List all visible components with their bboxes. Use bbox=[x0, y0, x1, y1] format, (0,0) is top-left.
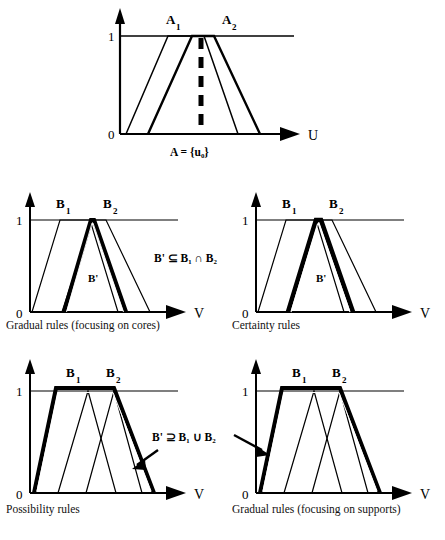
relation-annotation: B' ⊇ B₁ ∪ B₂ bbox=[152, 431, 216, 443]
relation-annotation: B' ⊆ B₁ ∩ B₂ bbox=[154, 252, 217, 264]
certainty-rules-panel: 1 0 B 1 B 2 B' V Certainty rules bbox=[232, 182, 445, 332]
result-curve-b-prime bbox=[64, 220, 126, 312]
curve-label-b1-subscript: 1 bbox=[302, 375, 307, 385]
tick-zero-label: 0 bbox=[242, 487, 249, 502]
y-axis-arrowhead bbox=[251, 192, 261, 207]
tick-one-label: 1 bbox=[108, 29, 115, 44]
tick-one-label: 1 bbox=[242, 213, 249, 228]
x-axis-label-v: V bbox=[420, 306, 430, 321]
x-axis-label-u: U bbox=[308, 128, 318, 143]
tick-one-label: 1 bbox=[16, 384, 23, 399]
tick-zero-label: 0 bbox=[108, 127, 115, 142]
panel-caption-certainty: Certainty rules bbox=[232, 319, 300, 331]
x-axis-arrowhead bbox=[392, 305, 412, 319]
curve-label-b2-subscript: 2 bbox=[342, 375, 347, 385]
possibility-rules-panel: 1 0 B 1 B 2 B' ⊇ B₁ ∪ B₂ V Possibility r… bbox=[6, 353, 221, 513]
curve-label-b2-subscript: 2 bbox=[339, 206, 344, 216]
x-axis-arrowhead bbox=[166, 305, 186, 319]
panel-caption-possibility: Possibility rules bbox=[6, 503, 80, 515]
x-axis-label-v: V bbox=[194, 487, 204, 502]
y-axis-arrowhead bbox=[115, 8, 125, 24]
panel-caption-gradual-supports: Gradual rules (focusing on supports) bbox=[232, 503, 401, 515]
curve-label-b2: B bbox=[332, 365, 341, 380]
curve-label-b1: B bbox=[292, 365, 301, 380]
curve-b1 bbox=[284, 391, 342, 493]
curve-label-b2-subscript: 2 bbox=[113, 206, 118, 216]
y-axis-arrowhead bbox=[25, 192, 35, 207]
curve-label-b2: B bbox=[106, 365, 115, 380]
curve-label-b1-subscript: 1 bbox=[292, 206, 297, 216]
x-axis-arrowhead bbox=[166, 486, 186, 500]
input-set-caption: A = {u₀} bbox=[170, 146, 209, 158]
gradual-rules-supports-panel: 1 0 B 1 B 2 V Gradual rules (focusing on… bbox=[232, 353, 445, 513]
result-curve-b-prime bbox=[260, 388, 380, 493]
input-antecedent-panel: 1 0 A 1 A 2 U A = {u₀} bbox=[108, 2, 338, 160]
curve-label-a2: A bbox=[222, 12, 232, 27]
curve-label-a1: A bbox=[166, 12, 176, 27]
curve-label-a2-subscript: 2 bbox=[232, 22, 237, 32]
curve-a2 bbox=[148, 36, 260, 134]
panel-caption-gradual-cores: Gradual rules (focusing on cores) bbox=[6, 319, 160, 331]
x-axis-arrowhead bbox=[280, 127, 300, 141]
result-label-b-prime: B' bbox=[88, 272, 98, 284]
y-axis-arrowhead bbox=[25, 359, 35, 374]
x-axis-arrowhead bbox=[392, 486, 412, 500]
curve-label-a1-subscript: 1 bbox=[176, 22, 181, 32]
curve-b2 bbox=[62, 220, 150, 312]
x-axis-label-v: V bbox=[194, 306, 204, 321]
curve-label-b1: B bbox=[56, 196, 65, 211]
tick-one-label: 1 bbox=[16, 213, 23, 228]
curve-label-b2: B bbox=[329, 196, 338, 211]
curve-label-b2-subscript: 2 bbox=[116, 375, 121, 385]
x-axis-label-v: V bbox=[420, 487, 430, 502]
curve-label-b2: B bbox=[103, 196, 112, 211]
curve-b1 bbox=[32, 220, 118, 312]
y-axis-arrowhead bbox=[251, 359, 261, 374]
curve-label-b1-subscript: 1 bbox=[66, 206, 71, 216]
gradual-rules-cores-panel: 1 0 B 1 B 2 B' B' ⊆ B₁ ∩ B₂ V Gradual ru… bbox=[6, 182, 221, 332]
result-label-b-prime: B' bbox=[316, 272, 326, 284]
tick-zero-label: 0 bbox=[16, 487, 23, 502]
curve-label-b1: B bbox=[282, 196, 291, 211]
result-curve-b-prime bbox=[34, 388, 154, 493]
tick-one-label: 1 bbox=[242, 384, 249, 399]
curve-label-b1-subscript: 1 bbox=[76, 375, 81, 385]
curve-b1 bbox=[58, 391, 116, 493]
curve-label-b1: B bbox=[66, 365, 75, 380]
